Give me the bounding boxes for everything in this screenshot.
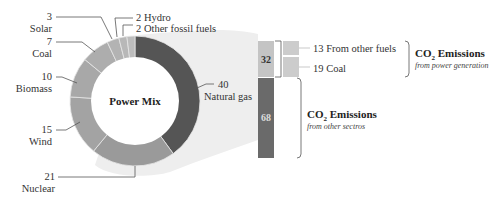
- power-mix-chart: Power Mix 40 Natural gas 21 Nuclear 15 W…: [0, 0, 503, 200]
- emissions-other-subtitle: from other sectros: [307, 122, 365, 131]
- label-wind-name: Wind: [29, 136, 53, 147]
- emissions-other-title: CO2 Emissions: [307, 108, 378, 123]
- donut-center-label: Power Mix: [109, 95, 161, 107]
- breakdown-other-fuels-label: 13 From other fuels: [313, 43, 396, 54]
- label-hydro: 2 Hydro: [136, 12, 171, 23]
- breakdown-coal-label: 19 Coal: [313, 63, 346, 74]
- bar-value-other: 68: [261, 112, 271, 123]
- label-biomass-name: Biomass: [16, 83, 52, 94]
- emissions-power-subtitle: from power generation: [415, 61, 488, 70]
- bar-value-power: 32: [261, 54, 271, 65]
- label-natural-gas-value: 40: [218, 79, 229, 90]
- breakdown-bracket: [275, 41, 281, 77]
- label-solar-name: Solar: [30, 23, 53, 34]
- emissions-power-title: CO2 Emissions: [415, 47, 486, 62]
- label-biomass-value: 10: [42, 71, 53, 82]
- label-solar-value: 3: [47, 11, 52, 22]
- breakdown-other-fuels-block: [283, 41, 299, 55]
- brace-other: [297, 78, 301, 158]
- label-coal-name: Coal: [32, 48, 52, 59]
- label-other-fossil: 2 Other fossil fuels: [136, 23, 216, 34]
- label-nuclear-name: Nuclear: [22, 183, 56, 194]
- label-nuclear-value: 21: [45, 171, 56, 182]
- label-coal-value: 7: [47, 36, 52, 47]
- brace-power: [405, 41, 409, 77]
- label-wind-value: 15: [42, 124, 53, 135]
- label-natural-gas-name: Natural gas: [204, 91, 252, 102]
- breakdown-coal-block: [283, 57, 299, 77]
